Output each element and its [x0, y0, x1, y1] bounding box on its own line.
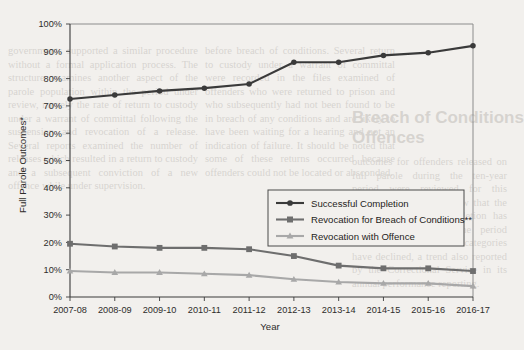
y-tick-label: 20%: [44, 238, 62, 248]
y-tick-label: 80%: [44, 74, 62, 84]
data-point-marker: [336, 263, 342, 269]
data-point-marker: [157, 88, 163, 94]
data-point-marker: [112, 244, 118, 250]
x-tick-label: 2011-12: [233, 305, 266, 315]
series-triangle: [67, 268, 477, 289]
y-tick-label: 70%: [44, 101, 62, 111]
data-point-marker: [291, 59, 297, 65]
data-point-marker: [112, 92, 118, 98]
series-circle: [67, 43, 476, 102]
x-tick-label: 2014-15: [367, 305, 401, 315]
y-tick-label: 0%: [49, 292, 62, 302]
x-axis-tick-group: 2007-082008-092009-102010-112011-122012-…: [53, 297, 490, 315]
data-point-marker: [381, 265, 387, 271]
y-tick-label: 50%: [44, 156, 62, 166]
data-point-marker: [157, 245, 163, 251]
data-point-marker: [202, 85, 208, 91]
data-point-marker: [287, 217, 293, 223]
data-point-marker: [67, 241, 73, 247]
data-point-marker: [246, 246, 252, 252]
data-point-marker: [201, 245, 207, 251]
x-axis-title: Year: [260, 321, 280, 332]
data-point-marker: [425, 50, 431, 56]
data-point-marker: [336, 59, 342, 65]
x-tick-label: 2012-13: [277, 305, 311, 315]
x-tick-label: 2015-16: [411, 305, 445, 315]
data-point-marker: [470, 43, 476, 49]
x-tick-label: 2007-08: [53, 305, 87, 315]
series-group: [67, 43, 477, 288]
x-tick-label: 2010-11: [188, 305, 221, 315]
x-tick-label: 2008-09: [98, 305, 132, 315]
y-tick-label: 100%: [39, 19, 63, 29]
y-axis-tick-group: 0%10%20%30%40%50%60%70%80%90%100%: [39, 19, 71, 302]
y-tick-label: 60%: [44, 129, 62, 139]
legend-label-1: Successful Completion: [311, 198, 409, 209]
data-point-marker: [287, 200, 293, 206]
data-point-marker: [425, 265, 431, 271]
y-tick-label: 10%: [44, 265, 62, 275]
data-point-marker: [246, 81, 252, 87]
legend-label-2: Revocation for Breach of Conditions**: [311, 214, 472, 225]
legend-label-3: Revocation with Offence: [311, 231, 415, 242]
plot-frame: [70, 24, 473, 297]
y-tick-label: 40%: [44, 183, 62, 193]
y-tick-label: 90%: [44, 47, 62, 57]
data-point-marker: [470, 268, 476, 274]
chart-legend: Successful CompletionRevocation for Brea…: [268, 190, 472, 246]
data-point-marker: [381, 53, 387, 59]
y-tick-label: 30%: [44, 210, 62, 220]
x-tick-label: 2016-17: [456, 305, 490, 315]
x-tick-label: 2013-14: [322, 305, 356, 315]
data-point-marker: [67, 96, 73, 102]
y-axis-title: Full Parole Outcomes*: [17, 117, 28, 213]
data-point-marker: [291, 253, 297, 259]
x-tick-label: 2009-10: [143, 305, 177, 315]
